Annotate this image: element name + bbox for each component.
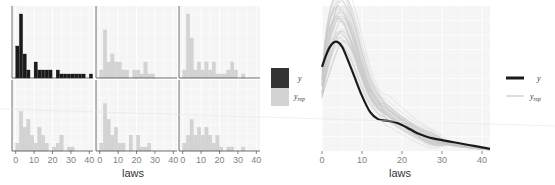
facet-yrep-1 <box>96 6 177 78</box>
x-tick-label: 40 <box>251 155 261 165</box>
left-x-axis-label: laws <box>122 167 145 179</box>
facet-yrep-2 <box>179 6 260 78</box>
facet-yrep-4 <box>96 80 177 151</box>
x-tick-label: 10 <box>357 155 367 165</box>
x-tick-label: 30 <box>66 155 76 165</box>
chart-canvas: 010203040010203040010203040 laws y yrep … <box>0 0 555 185</box>
facet-yrep-3 <box>12 80 93 151</box>
legend-label-y: y <box>297 74 302 83</box>
x-tick-label: 30 <box>233 155 243 165</box>
facet-y <box>12 6 93 78</box>
x-tick-label: 0 <box>97 155 102 165</box>
x-tick-label: 10 <box>196 155 206 165</box>
x-tick-label: 30 <box>150 155 160 165</box>
x-tick-label: 30 <box>437 155 447 165</box>
x-tick-label: 0 <box>319 155 324 165</box>
right-x-axis: 010203040 <box>319 151 487 165</box>
legend-swatch-y <box>271 68 289 88</box>
x-tick-label: 0 <box>180 155 185 165</box>
histogram-facets <box>12 6 260 151</box>
legend-label-y: y <box>536 74 541 83</box>
density-legend: y yrep <box>506 74 541 102</box>
x-tick-label: 20 <box>131 155 141 165</box>
density-overlay-plot <box>322 0 490 151</box>
legend-swatch-yrep <box>271 88 289 106</box>
x-tick-label: 40 <box>168 155 178 165</box>
legend-label-yrep: yrep <box>529 92 541 102</box>
x-tick-label: 10 <box>113 155 123 165</box>
x-tick-label: 40 <box>84 155 94 165</box>
x-tick-label: 20 <box>397 155 407 165</box>
left-x-axis: 010203040010203040010203040 <box>13 151 261 165</box>
right-x-axis-label: laws <box>389 167 412 179</box>
histogram-legend: y yrep <box>271 68 305 106</box>
x-tick-label: 0 <box>13 155 18 165</box>
legend-label-yrep: yrep <box>293 92 305 102</box>
x-tick-label: 10 <box>29 155 39 165</box>
x-tick-label: 20 <box>47 155 57 165</box>
x-tick-label: 40 <box>477 155 487 165</box>
x-tick-label: 20 <box>214 155 224 165</box>
